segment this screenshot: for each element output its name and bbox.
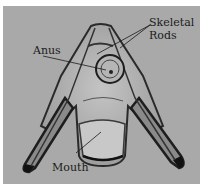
mouth-structure xyxy=(79,120,125,160)
label-rods: Rods xyxy=(149,30,177,42)
label-skeletal: Skeletal xyxy=(149,17,194,29)
label-anus: Anus xyxy=(33,45,61,57)
pointer-skeletal-rods-right xyxy=(120,25,150,48)
larva-micrograph: Skeletal Rods Anus Mouth xyxy=(3,6,200,184)
label-mouth: Mouth xyxy=(52,162,88,174)
